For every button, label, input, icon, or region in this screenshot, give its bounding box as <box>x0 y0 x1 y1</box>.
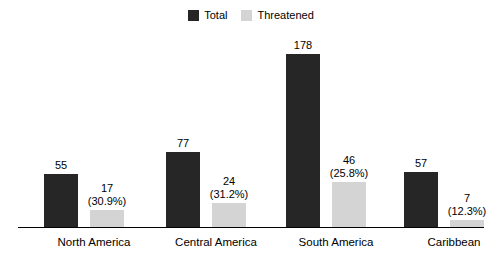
bar-group-south-america: 178 46 (25.8%) <box>286 30 386 227</box>
x-axis-line <box>18 227 484 228</box>
bar-label-total: 178 <box>263 39 343 52</box>
bar-total <box>286 54 320 227</box>
x-axis-label-caribbean: Caribbean <box>384 232 502 252</box>
bar-label-total: 77 <box>143 137 223 150</box>
x-axis-label-central-america: Central America <box>146 232 286 252</box>
bar-threatened <box>450 220 484 227</box>
bar-label-threatened: 24 (31.2%) <box>189 175 269 201</box>
bar-label-threatened: 17 (30.9%) <box>67 182 147 208</box>
bar-group-north-america: 55 17 (30.9%) <box>44 30 144 227</box>
legend-entry-total: Total <box>188 10 227 21</box>
bar-chart: Total Threatened 55 17 (30.9%) 77 <box>0 0 502 262</box>
bar-threatened <box>212 203 246 227</box>
legend-entry-threatened: Threatened <box>241 10 313 21</box>
bar-threatened <box>332 182 366 227</box>
bar-threatened <box>90 210 124 227</box>
plot-area: 55 17 (30.9%) 77 24 (31.2%) 178 <box>18 30 484 227</box>
chart-legend: Total Threatened <box>0 10 502 21</box>
bar-label-threatened: 7 (12.3%) <box>427 192 502 218</box>
x-axis-labels: North America Central America South Amer… <box>18 232 484 256</box>
legend-swatch-threatened <box>241 10 252 21</box>
bar-label-threatened: 46 (25.8%) <box>309 154 389 180</box>
bar-group-central-america: 77 24 (31.2%) <box>166 30 266 227</box>
x-axis-label-north-america: North America <box>24 232 164 252</box>
bar-group-caribbean: 57 7 (12.3%) <box>404 30 502 227</box>
legend-swatch-total <box>188 10 199 21</box>
bar-label-total: 55 <box>21 159 101 172</box>
bar-label-total: 57 <box>381 157 461 170</box>
legend-label-threatened: Threatened <box>257 10 313 21</box>
legend-label-total: Total <box>204 10 227 21</box>
